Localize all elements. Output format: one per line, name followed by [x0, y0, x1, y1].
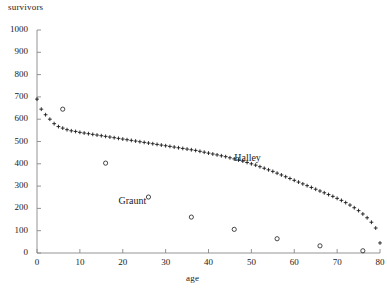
axis-lines — [37, 30, 380, 253]
chart-container: survivors age 01002003004005006007008009… — [0, 0, 387, 290]
plot-area — [0, 0, 387, 290]
series-graunt — [61, 107, 365, 253]
axis-ticks — [37, 30, 380, 253]
series-halley — [35, 97, 382, 245]
data-points — [35, 97, 382, 253]
